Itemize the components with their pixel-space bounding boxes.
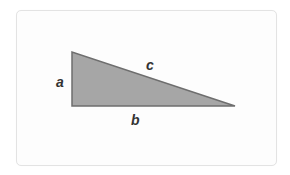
label-side-c: c [146, 57, 154, 73]
triangle-diagram: a c b [0, 0, 290, 175]
label-side-b: b [131, 112, 140, 128]
label-side-a: a [56, 74, 64, 90]
